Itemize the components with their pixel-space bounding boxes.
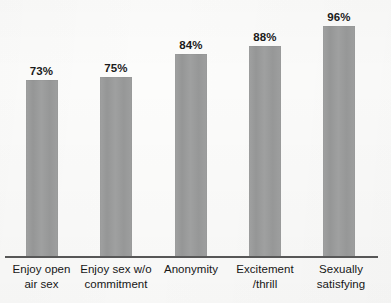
bar-0[interactable]: [26, 80, 58, 258]
bar-value-label-1: 75%: [104, 62, 127, 74]
x-axis-category-labels: Enjoy open air sex Enjoy sex w/o commitm…: [0, 262, 391, 303]
x-axis-line: [5, 256, 378, 258]
bar-2[interactable]: [175, 54, 207, 258]
bar-group-3: 88%: [249, 46, 281, 258]
bar-value-label-4: 96%: [327, 11, 350, 23]
bar-group-4: 96%: [323, 26, 355, 258]
category-label-4: Sexually satisfying: [301, 262, 381, 291]
category-label-1: Enjoy sex w/o commitment: [73, 262, 159, 291]
bar-group-1: 75%: [100, 77, 132, 258]
category-label-0: Enjoy open air sex: [0, 262, 83, 291]
category-label-1-line-1: Enjoy sex w/o: [73, 262, 159, 277]
bar-1[interactable]: [100, 77, 132, 258]
plot-area: 73% 75% 84% 88% 96%: [0, 0, 391, 258]
category-label-3-line-1: Excitement: [226, 262, 304, 277]
category-label-0-line-1: Enjoy open: [0, 262, 83, 277]
bar-4[interactable]: [323, 26, 355, 258]
category-label-4-line-1: Sexually: [301, 262, 381, 277]
bar-3[interactable]: [249, 46, 281, 258]
bar-group-2: 84%: [175, 54, 207, 258]
category-label-1-line-2: commitment: [73, 277, 159, 292]
category-label-4-line-2: satisfying: [301, 277, 381, 292]
bar-value-label-2: 84%: [179, 39, 202, 51]
category-label-3-line-2: /thrill: [226, 277, 304, 292]
bar-value-label-3: 88%: [253, 31, 276, 43]
bar-chart: 73% 75% 84% 88% 96% Enjoy open air sex E…: [0, 0, 391, 303]
category-label-0-line-2: air sex: [0, 277, 83, 292]
category-label-3: Excitement /thrill: [226, 262, 304, 291]
bar-group-0: 73%: [26, 80, 58, 258]
category-label-2: Anonymity: [152, 262, 230, 277]
bar-value-label-0: 73%: [30, 65, 53, 77]
category-label-2-line-1: Anonymity: [152, 262, 230, 277]
